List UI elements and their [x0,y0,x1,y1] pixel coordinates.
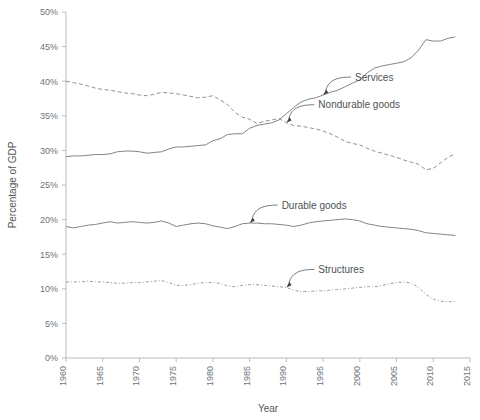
annotation-layer: ServicesNondurable goodsDurable goodsStr… [250,72,400,288]
annotation-leader-line [326,77,352,91]
x-tick-label: 1980 [205,366,215,386]
annotation-label-durable-goods: Durable goods [282,200,347,211]
annotation-label-structures: Structures [318,264,364,275]
x-tick-label: 2005 [389,366,399,386]
series-layer [66,37,455,302]
y-tick-label: 5% [45,319,58,329]
annotation-leader-line [289,105,315,119]
x-tick-label: 1990 [278,366,288,386]
y-tick-label: 15% [40,250,58,260]
y-tick-label: 0% [45,353,58,363]
y-axis-title: Percentage of GDP [7,141,18,228]
x-tick-label: 1960 [58,366,68,386]
x-tick-label: 1985 [242,366,252,386]
annotation-label-services: Services [355,72,393,83]
y-tick-label: 30% [40,146,58,156]
y-tick-label: 45% [40,42,58,52]
y-tick-label: 35% [40,111,58,121]
series-line-structures [66,281,455,302]
annotation-leader-line [289,269,315,283]
chart-container: 0%5%10%15%20%25%30%35%40%45%50% 19601965… [0,0,480,420]
x-tick-label: 2015 [462,366,472,386]
x-tick-label: 1975 [168,366,178,386]
y-axis-ticks: 0%5%10%15%20%25%30%35%40%45%50% [40,7,66,363]
annotation-leader-line [252,205,277,219]
y-tick-label: 10% [40,284,58,294]
y-tick-label: 25% [40,180,58,190]
x-tick-label: 2010 [425,366,435,386]
x-axis: 1960196519701975198019851990199520002005… [58,358,472,386]
series-line-durable-goods [66,219,455,236]
x-tick-label: 2000 [352,366,362,386]
y-tick-label: 50% [40,7,58,17]
x-tick-label: 1965 [95,366,105,386]
y-tick-label: 40% [40,77,58,87]
x-axis-ticks: 1960196519701975198019851990199520002005… [58,358,472,386]
y-tick-label: 20% [40,215,58,225]
x-tick-label: 1995 [315,366,325,386]
x-axis-title: Year [258,403,279,414]
series-line-nondurable-goods [66,81,455,170]
annotation-label-nondurable-goods: Nondurable goods [318,99,400,110]
x-tick-label: 1970 [131,366,141,386]
series-line-services [66,37,455,157]
y-axis: 0%5%10%15%20%25%30%35%40%45%50% [40,7,66,363]
gdp-composition-line-chart: 0%5%10%15%20%25%30%35%40%45%50% 19601965… [0,0,480,420]
